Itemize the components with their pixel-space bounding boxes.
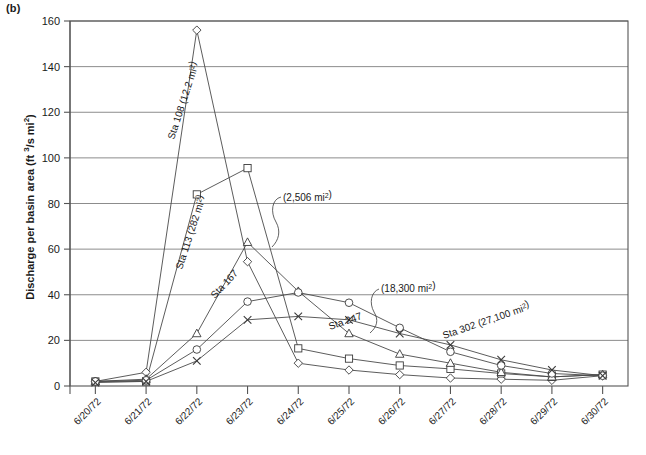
data-point-triangle	[243, 238, 251, 246]
x-axis-tick-label: 6/22/72	[173, 395, 205, 427]
line-chart: 0204060801001201401606/20/726/21/726/22/…	[0, 0, 646, 455]
series-label-sta-167: Sta 167	[208, 267, 240, 300]
data-point-triangle	[193, 329, 201, 337]
leader-line-sta-167	[272, 197, 281, 247]
data-point-diamond	[243, 257, 251, 265]
data-point-square	[345, 355, 352, 362]
series-label-sta-113: Sta 113 (282 mi2)	[171, 193, 208, 271]
series-label-sta-108: Sta 108 (12.2 mi2)	[163, 60, 201, 141]
data-point-circle	[294, 289, 302, 297]
x-axis-tick-label: 6/20/72	[71, 395, 103, 427]
data-point-circle	[447, 348, 455, 356]
x-axis-tick-label: 6/24/72	[274, 395, 306, 427]
data-point-diamond	[446, 374, 454, 382]
series-label-sta-302: Sta 302 (27,100 mi2)	[440, 298, 531, 341]
figure-panel-b: (b) Discharge per basin area (ft 3/s mi2…	[0, 0, 646, 455]
y-axis-tick-label: 80	[48, 198, 60, 210]
x-axis-tick-label: 6/28/72	[477, 395, 509, 427]
x-axis-tick-label: 6/29/72	[528, 395, 560, 427]
data-point-circle	[193, 346, 201, 354]
y-axis-tick-label: 20	[48, 334, 60, 346]
data-point-circle	[142, 376, 150, 384]
y-axis-tick-label: 140	[42, 61, 60, 73]
data-point-circle	[92, 378, 100, 386]
data-point-diamond	[345, 366, 353, 374]
y-axis-tick-label: 0	[54, 380, 60, 392]
data-point-triangle	[396, 350, 404, 358]
x-axis-tick-label: 6/23/72	[224, 395, 256, 427]
data-point-circle	[244, 298, 252, 306]
y-axis-tick-label: 60	[48, 243, 60, 255]
data-point-diamond	[294, 359, 302, 367]
y-axis-tick-label: 160	[42, 15, 60, 27]
y-axis-tick-label: 120	[42, 106, 60, 118]
data-point-diamond	[396, 370, 404, 378]
series-label-sta-247: Sta 247	[327, 310, 364, 332]
annotation-sta-247-area: (18,300 mi2)	[381, 280, 436, 294]
data-point-triangle	[345, 329, 353, 337]
annotation-sta-167-area: (2,506 mi2)	[283, 189, 332, 203]
x-axis-tick-label: 6/25/72	[325, 395, 357, 427]
data-point-square	[244, 165, 251, 172]
data-point-circle	[345, 299, 353, 307]
x-axis-tick-label: 6/26/72	[376, 395, 408, 427]
data-point-square	[295, 345, 302, 352]
data-point-square	[396, 362, 403, 369]
x-axis-tick-label: 6/21/72	[122, 395, 154, 427]
y-axis-tick-label: 100	[42, 152, 60, 164]
data-point-diamond	[193, 26, 201, 34]
x-axis-tick-label: 6/27/72	[426, 395, 458, 427]
y-axis-tick-label: 40	[48, 289, 60, 301]
x-axis-tick-label: 6/30/72	[579, 395, 611, 427]
